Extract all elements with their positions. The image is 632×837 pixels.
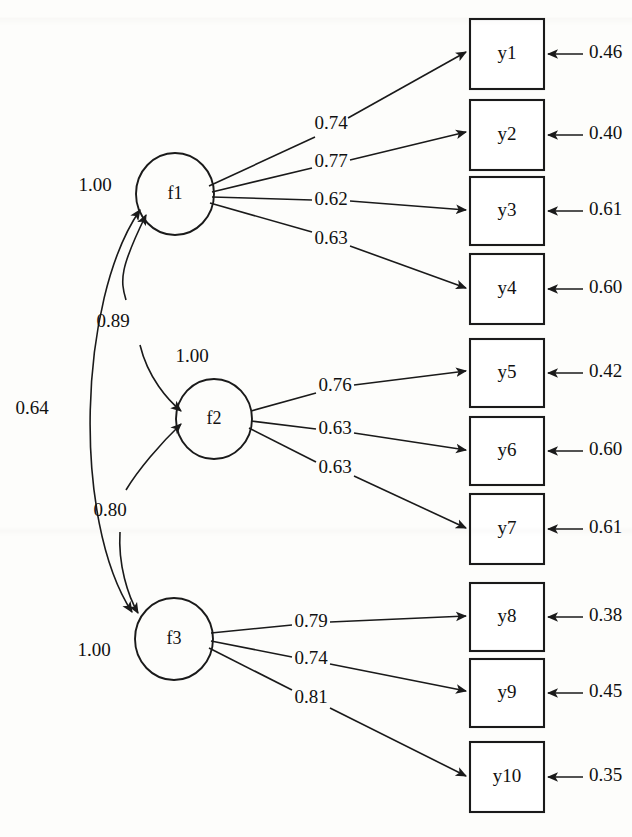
diagram-canvas: y1 y2 y3 y4 y5 y6 y7 y8	[0, 0, 632, 837]
indicator-node-y10: y10	[470, 742, 544, 812]
factor-variance-f2: 1.00	[175, 345, 208, 366]
loading-value-f3-y8: 0.79	[294, 610, 327, 631]
covariance-value-f2-f3: 0.80	[93, 499, 126, 520]
residual-value-y2: 0.40	[589, 122, 622, 143]
loading-line-f2-y5-seg1	[251, 393, 316, 411]
loading-path-f1-y3: 0.62	[212, 188, 466, 210]
factor-label-f3: f3	[167, 628, 182, 648]
indicator-label-y7: y7	[498, 517, 517, 538]
residual-y1: 0.46	[548, 41, 622, 62]
loading-line-f2-y6-seg2	[354, 433, 466, 450]
loading-path-f3-y8: 0.79	[211, 610, 466, 633]
residual-y10: 0.35	[548, 764, 622, 785]
residual-value-y4: 0.60	[589, 276, 622, 297]
factor-variance-f3: 1.00	[77, 639, 110, 660]
loading-line-f1-y1-seg2	[348, 52, 466, 118]
residual-value-y6: 0.60	[589, 438, 622, 459]
residual-value-y3: 0.61	[589, 198, 622, 219]
factor-variance-f1: 1.00	[78, 174, 111, 195]
factor-label-f2: f2	[207, 408, 222, 428]
loading-line-f1-y1-seg1	[209, 137, 315, 186]
loading-line-f1-y4-seg1	[210, 203, 312, 232]
residual-y6: 0.60	[548, 438, 622, 459]
indicator-node-y6: y6	[470, 417, 544, 485]
indicator-label-y5: y5	[498, 361, 517, 382]
indicator-label-y8: y8	[498, 605, 517, 626]
residual-value-y7: 0.61	[589, 516, 622, 537]
covariance-curve-f1-f2-upper	[123, 215, 146, 300]
loading-path-f2-y7: 0.63	[249, 428, 466, 528]
indicator-node-y2: y2	[470, 100, 544, 170]
loading-line-f1-y2-seg1	[212, 168, 312, 192]
indicator-label-y2: y2	[498, 123, 517, 144]
loading-line-f3-y8-seg1	[211, 625, 292, 633]
indicator-node-y9: y9	[470, 659, 544, 727]
indicator-label-y10: y10	[493, 765, 522, 786]
residual-y2: 0.40	[548, 122, 622, 143]
residual-value-y8: 0.38	[589, 604, 622, 625]
indicator-label-y6: y6	[498, 439, 517, 460]
latent-factor-nodes: f1 1.00 f2 1.00 f3 1.00	[77, 153, 252, 680]
covariance-curve-f2-f3-upper	[126, 424, 181, 490]
loading-line-f1-y3-seg1	[212, 197, 312, 200]
loading-value-f1-y3: 0.62	[314, 188, 347, 209]
residual-value-y5: 0.42	[589, 360, 622, 381]
residual-y5: 0.42	[548, 360, 622, 381]
loading-line-f2-y7-seg2	[354, 476, 466, 528]
loading-value-f3-y9: 0.74	[294, 647, 328, 668]
indicator-label-y3: y3	[498, 199, 517, 220]
factor-label-f1: f1	[168, 183, 183, 203]
factor-node-f1: f1 1.00	[78, 153, 214, 235]
observed-variable-boxes: y1 y2 y3 y4 y5 y6 y7 y8	[470, 19, 544, 812]
loading-paths-f3: 0.79 0.74 0.81	[209, 610, 466, 776]
loading-path-f1-y2: 0.77	[212, 132, 466, 192]
loading-line-f1-y3-seg2	[350, 201, 466, 210]
residual-variance-group: 0.46 0.40 0.61 0.60 0.42 0.60 0.61	[548, 41, 622, 785]
indicator-node-y4: y4	[470, 254, 544, 324]
covariance-curve-f1-f3	[90, 210, 140, 612]
indicator-node-y3: y3	[470, 177, 544, 245]
loading-value-f3-y10: 0.81	[294, 686, 327, 707]
indicator-node-y8: y8	[470, 583, 544, 651]
factor-node-f2: f2 1.00	[175, 345, 252, 459]
residual-y8: 0.38	[548, 604, 622, 625]
residual-y4: 0.60	[548, 276, 622, 297]
loading-value-f1-y1: 0.74	[314, 112, 348, 133]
loading-line-f1-y2-seg2	[350, 132, 466, 160]
residual-y3: 0.61	[548, 198, 622, 219]
loading-path-f3-y10: 0.81	[209, 648, 466, 776]
loading-path-f1-y4: 0.63	[210, 203, 466, 288]
loading-line-f3-y9-seg2	[330, 664, 466, 691]
indicator-label-y4: y4	[498, 277, 518, 298]
loading-value-f1-y2: 0.77	[314, 150, 347, 171]
loading-line-f2-y6-seg1	[251, 421, 316, 429]
indicator-node-y7: y7	[470, 494, 544, 564]
residual-y7: 0.61	[548, 516, 622, 537]
loading-value-f2-y6: 0.63	[318, 417, 351, 438]
covariance-value-f1-f2: 0.89	[96, 310, 129, 331]
residual-value-y1: 0.46	[589, 41, 622, 62]
loading-line-f2-y7-seg1	[249, 428, 316, 462]
loading-line-f2-y5-seg2	[354, 371, 466, 385]
factor-node-f3: f3 1.00	[77, 598, 213, 680]
loading-line-f3-y10-seg2	[330, 708, 466, 776]
loading-paths-f2: 0.76 0.63 0.63	[249, 371, 466, 528]
residual-y9: 0.45	[548, 680, 622, 701]
loading-path-f2-y5: 0.76	[251, 371, 466, 411]
covariance-curves: 0.64 0.89 0.80	[15, 210, 181, 613]
loading-line-f3-y8-seg2	[330, 616, 466, 622]
indicator-label-y9: y9	[498, 681, 517, 702]
covariance-path-f1-f3: 0.64	[15, 210, 140, 612]
covariance-value-f1-f3: 0.64	[15, 397, 49, 418]
indicator-node-y5: y5	[470, 339, 544, 407]
residual-value-y9: 0.45	[589, 680, 622, 701]
indicator-node-y1: y1	[470, 19, 544, 89]
covariance-curve-f2-f3-lower	[120, 532, 138, 613]
indicator-label-y1: y1	[498, 42, 517, 63]
covariance-path-f1-f2: 0.89	[96, 215, 181, 411]
loading-value-f2-y5: 0.76	[318, 374, 351, 395]
loading-path-f3-y9: 0.74	[211, 641, 466, 691]
loading-line-f1-y4-seg2	[350, 246, 466, 288]
residual-value-y10: 0.35	[589, 764, 622, 785]
loading-paths-f1: 0.74 0.77 0.62 0.63	[209, 52, 466, 288]
